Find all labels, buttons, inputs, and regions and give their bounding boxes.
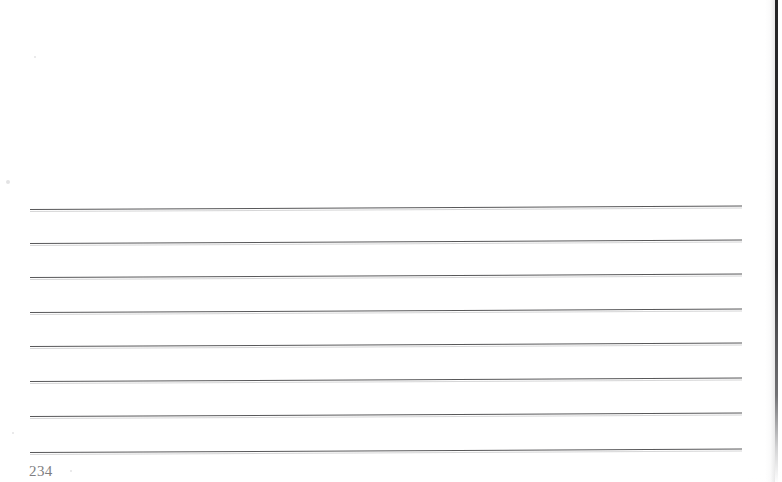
rule-line-1 bbox=[30, 206, 742, 210]
rule-line-8 bbox=[30, 449, 742, 453]
page-edge-halo bbox=[765, 0, 775, 482]
rule-line-5 bbox=[30, 343, 742, 347]
ruled-lines-area bbox=[0, 0, 782, 482]
page-number: 234 bbox=[29, 462, 53, 480]
rule-line-4 bbox=[30, 309, 742, 313]
rule-line-7 bbox=[30, 413, 742, 417]
page-edge-shadow bbox=[775, 0, 778, 482]
rule-line-3 bbox=[30, 274, 742, 278]
rule-line-2 bbox=[30, 240, 742, 244]
rule-line-6 bbox=[30, 378, 742, 382]
scanned-page: 234 bbox=[0, 0, 782, 482]
